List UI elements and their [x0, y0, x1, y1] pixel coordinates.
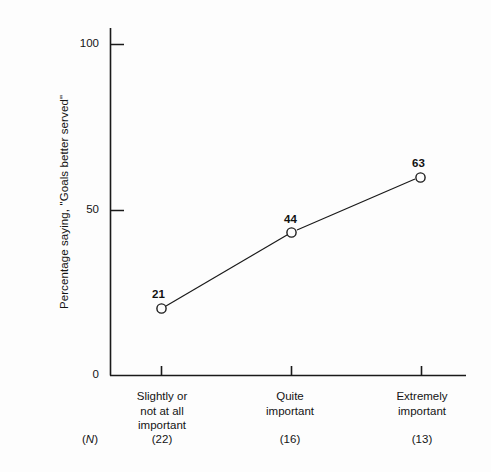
data-point-marker-1[interactable] [287, 228, 296, 237]
data-point-label-2: 63 [412, 157, 425, 169]
x-category-label-2: Extremely important [352, 389, 491, 418]
x-category-label-1-line-0: Quite [220, 389, 360, 404]
data-point-marker-2[interactable] [416, 173, 425, 182]
data-point-label-1: 44 [284, 213, 297, 225]
x-category-label-0: Slightly or not at all important [92, 389, 232, 433]
x-category-label-1: Quite important [220, 389, 360, 418]
x-category-label-0-line-2: important [92, 418, 232, 433]
x-category-label-0-line-1: not at all [92, 404, 232, 419]
data-line-segment-1 [166, 235, 287, 306]
figure-chart: Percentage saying, "Goals better served"… [0, 0, 491, 472]
sample-size-value-0: (22) [92, 433, 232, 445]
x-category-label-0-line-0: Slightly or [92, 389, 232, 404]
sample-size-value-1: (16) [220, 433, 360, 445]
data-point-marker-0[interactable] [157, 304, 166, 313]
data-line-segment-2 [297, 179, 415, 230]
data-point-label-0: 21 [152, 288, 165, 300]
x-category-label-2-line-1: important [352, 404, 491, 419]
x-category-label-2-line-0: Extremely [352, 389, 491, 404]
x-category-label-1-line-1: important [220, 404, 360, 419]
sample-size-value-2: (13) [352, 433, 491, 445]
